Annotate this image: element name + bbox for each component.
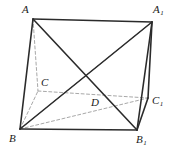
vertex-label-B1-text: B [136,133,143,145]
vertex-label-C1: C1 [152,95,163,106]
geometry-canvas [0,0,175,153]
vertex-label-A1: A1 [153,4,163,15]
vertex-label-A1-text: A [153,3,160,15]
geometry-figure: A A1 B B1 C C1 D [0,0,175,153]
vertex-label-B: B [9,133,16,144]
edge-B-B1 [20,129,137,130]
vertex-label-D: D [91,97,99,108]
vertex-label-C1-sub: 1 [160,100,164,108]
vertex-label-C1-text: C [152,94,159,106]
vertex-label-A-text: A [22,3,29,15]
vertex-label-B1-sub: 1 [143,139,147,147]
vertex-label-A1-sub: 1 [160,9,164,17]
vertex-label-D-text: D [91,96,99,108]
edge-A-B [20,19,33,129]
vertex-label-C: C [41,77,48,88]
vertex-label-B1: B1 [136,134,146,145]
vertex-label-C-text: C [41,76,48,88]
edge-A-C [33,19,38,91]
vertex-label-B-text: B [9,132,16,144]
edge-A-A1 [33,19,152,22]
vertex-label-A: A [22,4,29,15]
